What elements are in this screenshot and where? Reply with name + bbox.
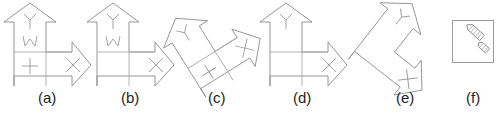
caption-layer: (a) (b) (c) (d) (e) (f)	[0, 0, 500, 121]
caption-a: (a)	[38, 90, 56, 105]
figure-root: (a) (b) (c) (d) (e) (f)	[0, 0, 500, 121]
caption-c: (c)	[208, 90, 226, 105]
caption-e: (e)	[396, 90, 414, 105]
caption-d: (d)	[293, 90, 311, 105]
caption-f: (f)	[466, 90, 480, 105]
caption-b: (b)	[121, 90, 139, 105]
